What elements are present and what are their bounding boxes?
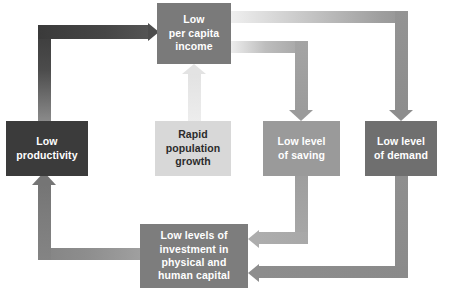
node-label-low-per-capita-income: Lowper capitaincome — [160, 13, 228, 53]
node-low-levels-of-investment: Low levels ofinvestment inphysical andhu… — [140, 224, 248, 288]
diagram-canvas: Lowper capitaincome Lowproductivity Rapi… — [0, 0, 451, 301]
node-low-level-of-demand: Low levelof demand — [365, 121, 437, 176]
edge-demand-to-investment-vertical — [395, 176, 408, 278]
edge-productivity-to-income-vertical — [38, 25, 51, 125]
arrowhead-up-icon-population-to-income — [182, 64, 206, 74]
edge-income-to-saving-vertical — [295, 41, 308, 113]
node-label-low-level-of-saving: Low levelof saving — [266, 135, 337, 162]
node-label-low-productivity: Lowproductivity — [9, 135, 85, 162]
edge-population-to-income-vertical — [188, 72, 201, 122]
arrowhead-left-icon-saving-to-investment — [248, 230, 259, 248]
node-low-level-of-saving: Low levelof saving — [263, 121, 340, 176]
arrowhead-down-icon-income-to-demand — [389, 110, 413, 121]
node-label-rapid-population-growth: Rapidpopulationgrowth — [158, 128, 228, 168]
edge-demand-to-investment-horizontal — [259, 266, 408, 278]
edge-investment-to-productivity-vertical — [38, 185, 51, 260]
arrowhead-down-icon-income-to-saving — [289, 110, 313, 121]
node-label-low-level-of-demand: Low levelof demand — [368, 135, 434, 162]
arrowhead-left-icon-demand-to-investment — [248, 264, 259, 282]
node-label-low-levels-of-investment: Low levels ofinvestment inphysical andhu… — [143, 229, 245, 283]
node-low-productivity: Lowproductivity — [6, 121, 88, 176]
edge-income-to-demand-horizontal — [231, 11, 408, 23]
edge-saving-to-investment-horizontal — [259, 232, 308, 244]
edge-investment-to-productivity-horizontal — [38, 248, 142, 260]
node-rapid-population-growth: Rapidpopulationgrowth — [155, 121, 231, 176]
edge-income-to-demand-vertical — [395, 11, 408, 113]
node-low-per-capita-income: Lowper capitaincome — [157, 3, 231, 64]
edge-productivity-to-income-horizontal — [38, 25, 150, 39]
